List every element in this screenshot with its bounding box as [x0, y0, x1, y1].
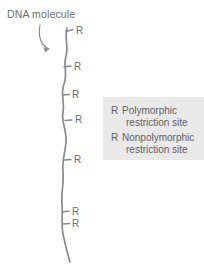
restriction-site-label-5: R — [74, 155, 81, 165]
legend-key-icon: R — [111, 132, 122, 144]
legend-item-polymorphic: R Polymorphic restriction site — [111, 105, 188, 128]
legend-label-nonpolymorphic: Nonpolymorphic restriction site — [122, 132, 194, 155]
legend-label-line2: restriction site — [122, 144, 194, 156]
legend-label-line2: restriction site — [122, 117, 188, 129]
restriction-site-tick — [64, 160, 71, 161]
dna-restriction-site-figure: DNA molecule R R R R R R R R Polymorphic… — [0, 0, 204, 275]
restriction-site-label-3: R — [72, 90, 79, 100]
restriction-site-tick — [64, 66, 71, 67]
restriction-site-tick — [65, 120, 72, 121]
legend-label-polymorphic: Polymorphic restriction site — [122, 105, 188, 128]
restriction-site-label-7: R — [72, 219, 79, 229]
legend: R Polymorphic restriction site R Nonpoly… — [103, 97, 204, 160]
legend-key-icon: R — [111, 105, 122, 117]
curved-arrow-icon — [39, 25, 49, 53]
restriction-site-tick — [62, 211, 69, 212]
restriction-site-label-1: R — [76, 26, 83, 36]
legend-label-line1: Nonpolymorphic — [122, 132, 194, 143]
restriction-site-label-6: R — [72, 207, 79, 217]
dna-molecule-label: DNA molecule — [7, 8, 75, 20]
dna-strand-path — [62, 28, 70, 262]
legend-label-line1: Polymorphic — [122, 105, 177, 116]
restriction-site-tick — [63, 95, 70, 96]
legend-item-nonpolymorphic: R Nonpolymorphic restriction site — [111, 132, 194, 155]
restriction-site-label-4: R — [75, 115, 82, 125]
restriction-site-tick — [63, 224, 70, 225]
restriction-site-label-2: R — [74, 62, 81, 72]
